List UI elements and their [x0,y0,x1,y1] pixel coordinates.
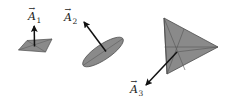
shape-group-3 [146,18,218,85]
area-vectors-figure: → A 1 → A 2 [0,0,229,102]
vector-arrow-2 [84,22,106,52]
shape-group-1 [19,26,53,52]
label-a2-letter: A [63,11,72,24]
figure-canvas: → A 1 → A 2 [0,0,229,102]
ellipse-major-axis [83,39,123,66]
label-a1-subscript: 1 [37,16,42,25]
label-a1: → A 1 [27,4,41,25]
label-a1-letter: A [27,10,36,23]
shape-group-2 [79,22,127,72]
label-a3: → A 3 [129,77,144,98]
label-a2: → A 2 [63,5,78,26]
label-a2-subscript: 2 [73,17,78,26]
label-a3-subscript: 3 [139,89,144,98]
triangle-face [164,18,218,74]
label-a3-letter: A [129,83,138,96]
